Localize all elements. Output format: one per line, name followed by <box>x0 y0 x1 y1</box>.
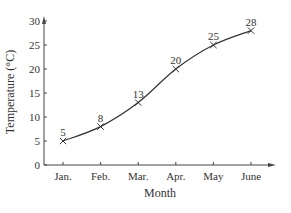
x-axis-arrow-icon <box>268 163 276 167</box>
x-marker-icon <box>173 66 179 72</box>
x-marker-icon <box>97 123 103 129</box>
x-marker-icon <box>248 27 254 33</box>
y-tick-label: 20 <box>29 63 41 75</box>
x-tick-label: May <box>203 170 224 182</box>
x-tick-label: Mar. <box>128 170 149 182</box>
y-tick-label: 5 <box>35 135 41 147</box>
data-label: 20 <box>170 54 182 66</box>
x-tick-label: Feb. <box>91 170 111 182</box>
data-label: 13 <box>133 88 145 100</box>
x-marker-icon <box>135 99 141 105</box>
y-tick-label: 0 <box>35 159 41 171</box>
data-labels: 5813202528 <box>60 16 257 138</box>
y-tick-label: 15 <box>29 87 41 99</box>
line-chart: 051015202530 Jan.Feb.Mar.Apr.MayJune 581… <box>0 0 291 213</box>
x-tick-label: June <box>241 170 261 182</box>
data-label: 8 <box>98 112 104 124</box>
y-axis-arrow-icon <box>42 16 46 24</box>
x-tick-label: Jan. <box>54 170 72 182</box>
y-axis-title: Temperature (°C) <box>3 50 17 134</box>
data-label: 5 <box>60 126 66 138</box>
x-axis-title: Month <box>144 186 176 200</box>
x-tick-label: Apr. <box>166 170 186 182</box>
x-marker-icon <box>210 42 216 48</box>
data-label: 28 <box>246 16 258 28</box>
series-line <box>63 31 251 141</box>
y-tick-label: 10 <box>29 111 41 123</box>
data-label: 25 <box>208 30 220 42</box>
y-tick-label: 30 <box>29 15 41 27</box>
y-tick-label: 25 <box>29 39 41 51</box>
x-marker-icon <box>60 138 66 144</box>
